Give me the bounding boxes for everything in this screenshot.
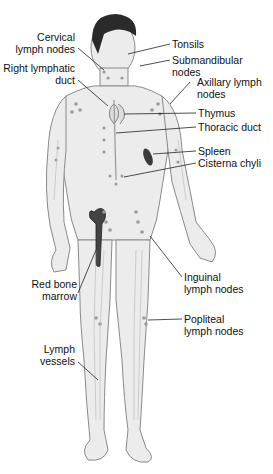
label-inguinal-lymph-nodes: Inguinal lymph nodes bbox=[184, 271, 244, 295]
label-line: lymph nodes bbox=[184, 283, 244, 295]
label-line: Thymus bbox=[198, 107, 235, 119]
label-right-lymphatic-duct: Right lymphatic duct bbox=[3, 62, 75, 86]
label-thymus: Thymus bbox=[198, 107, 235, 119]
label-cisterna-chyli: Cisterna chyli bbox=[198, 157, 261, 169]
label-lymph-vessels: Lymph vessels bbox=[40, 343, 75, 367]
label-line: lymph nodes bbox=[15, 43, 75, 55]
label-line: Right lymphatic bbox=[3, 62, 75, 74]
leader-inguinal bbox=[150, 236, 182, 277]
label-line: duct bbox=[3, 74, 75, 86]
leader-axillary bbox=[170, 82, 190, 104]
label-line: lymph nodes bbox=[184, 325, 244, 337]
label-submandibular-nodes: Submandibular nodes bbox=[172, 54, 243, 78]
body-figure bbox=[46, 20, 215, 462]
label-thoracic-duct: Thoracic duct bbox=[198, 121, 261, 133]
leader-submandibular bbox=[140, 60, 170, 66]
label-line: Tonsils bbox=[172, 38, 204, 50]
label-line: vessels bbox=[40, 355, 75, 367]
label-line: nodes bbox=[197, 88, 262, 100]
label-line: Lymph bbox=[40, 343, 75, 355]
label-line: Cervical bbox=[15, 31, 75, 43]
label-line: marrow bbox=[31, 290, 77, 302]
label-line: Submandibular bbox=[172, 54, 243, 66]
label-popliteal-lymph-nodes: Popliteal lymph nodes bbox=[184, 313, 244, 337]
label-line: Red bone bbox=[31, 278, 77, 290]
right-leg bbox=[78, 240, 112, 460]
label-tonsils: Tonsils bbox=[172, 38, 204, 50]
label-red-bone-marrow: Red bone marrow bbox=[31, 278, 77, 302]
label-spleen: Spleen bbox=[198, 145, 231, 157]
label-line: Cisterna chyli bbox=[198, 157, 261, 169]
label-line: Inguinal bbox=[184, 271, 244, 283]
label-line: Spleen bbox=[198, 145, 231, 157]
label-line: Thoracic duct bbox=[198, 121, 261, 133]
label-cervical-lymph-nodes: Cervical lymph nodes bbox=[15, 31, 75, 55]
leader-popliteal bbox=[148, 319, 182, 320]
label-line: Popliteal bbox=[184, 313, 244, 325]
label-line: Axillary lymph bbox=[197, 76, 262, 88]
label-axillary-lymph-nodes: Axillary lymph nodes bbox=[197, 76, 262, 100]
